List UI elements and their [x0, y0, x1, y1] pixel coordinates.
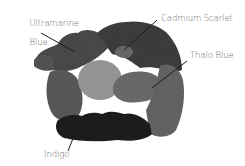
label-ultramarine-line2: Blue	[29, 37, 47, 47]
paint-swatch-figure: Ultramarine Blue Cadmium Scarlet Thalo B…	[0, 0, 245, 166]
left-tail-swatch	[34, 55, 54, 71]
label-cadmium-scarlet: Cadmium Scarlet	[161, 14, 233, 24]
label-indigo: Indigo	[44, 150, 69, 160]
label-thalo-blue: Thalo Blue	[190, 51, 234, 61]
label-ultramarine-blue: Ultramarine Blue	[19, 9, 79, 57]
label-ultramarine-line1: Ultramarine	[29, 18, 78, 28]
indigo-swatch	[56, 112, 152, 142]
left-swatch	[47, 70, 83, 120]
cadmium-scarlet-swatch	[115, 46, 133, 58]
